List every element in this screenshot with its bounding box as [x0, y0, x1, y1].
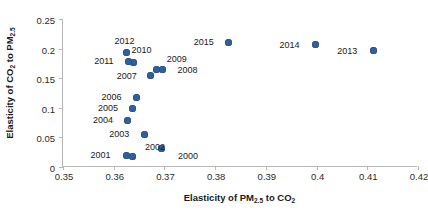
x-axis-tick-label: 0.35 — [55, 171, 74, 182]
data-label-2009: 2009 — [167, 54, 187, 64]
plot-area: 00.050.10.150.20.25 0.350.360.370.380.39… — [62, 19, 417, 167]
x-axis-tick: 0.37 — [164, 166, 165, 170]
x-axis-tick: 0.35 — [63, 166, 64, 170]
data-label-2000: 2000 — [178, 151, 198, 161]
data-point-2007[interactable] — [147, 72, 154, 79]
x-axis-title-mid: to CO — [263, 192, 292, 203]
data-point-2009[interactable] — [153, 66, 160, 73]
x-axis-title-sub-pm: 2.5 — [254, 197, 263, 204]
data-point-2002[interactable] — [129, 153, 136, 160]
data-point-2013[interactable] — [370, 47, 377, 54]
data-label-2013: 2013 — [337, 46, 357, 56]
data-point-2003[interactable] — [141, 131, 148, 138]
y-axis-title-mid: to PM — [4, 36, 15, 65]
data-label-2006: 2006 — [102, 92, 122, 102]
data-label-2011: 2011 — [94, 56, 113, 66]
y-axis-tick: 0.2 — [59, 49, 63, 50]
x-axis-tick-label: 0.41 — [359, 171, 378, 182]
x-axis-tick: 0.36 — [114, 166, 115, 170]
data-point-2015[interactable] — [225, 39, 232, 46]
x-axis-title-sub-co: 2 — [292, 197, 296, 204]
data-label-2008: 2008 — [177, 65, 197, 75]
data-point-2014[interactable] — [312, 41, 319, 48]
y-axis-title-sub-co: 2 — [9, 65, 16, 69]
x-axis-tick: 0.38 — [215, 166, 216, 170]
data-label-2003: 2003 — [109, 129, 129, 139]
data-label-2004: 2004 — [93, 115, 113, 125]
y-axis-tick-label: 0.15 — [37, 74, 56, 85]
y-axis-tick-label: 0.05 — [37, 133, 56, 144]
y-axis-title-prefix: Elasticity of CO — [4, 69, 15, 139]
y-axis-tick: 0.25 — [59, 19, 63, 20]
data-label-2002: 2002 — [145, 142, 165, 152]
x-axis-tick: 0.41 — [367, 166, 368, 170]
data-label-2014: 2014 — [280, 40, 300, 50]
x-axis-tick-label: 0.39 — [258, 171, 277, 182]
y-axis-tick: 0.15 — [59, 78, 63, 79]
data-label-2010: 2010 — [131, 45, 151, 55]
y-axis-title: Elasticity of CO2 to PM2.5 — [4, 0, 18, 176]
y-axis-tick: 0.05 — [59, 137, 63, 138]
data-point-2004[interactable] — [124, 117, 131, 124]
y-axis-tick: 0.1 — [59, 108, 63, 109]
x-axis-tick: 0.42 — [418, 166, 419, 170]
y-axis-title-sub-pm: 2.5 — [9, 27, 16, 36]
x-axis-tick-label: 0.37 — [156, 171, 175, 182]
x-axis-title: Elasticity of PM2.5 to CO2 — [62, 192, 417, 203]
y-axis-tick-label: 0.2 — [42, 44, 55, 55]
y-axis-tick-label: 0.25 — [37, 15, 56, 26]
data-label-2012: 2012 — [114, 36, 134, 46]
data-point-2005[interactable] — [129, 105, 136, 112]
x-axis-tick-label: 0.38 — [207, 171, 226, 182]
x-axis-title-prefix: Elasticity of PM — [184, 192, 254, 203]
data-point-2011[interactable] — [125, 58, 132, 65]
y-axis-tick-label: 0.1 — [42, 103, 55, 114]
x-axis-tick-label: 0.42 — [410, 171, 428, 182]
data-point-2006[interactable] — [133, 94, 140, 101]
data-label-2007: 2007 — [117, 71, 137, 81]
data-point-2012[interactable] — [123, 49, 130, 56]
data-label-2015: 2015 — [194, 37, 214, 47]
data-label-2005: 2005 — [98, 103, 118, 113]
x-axis-tick: 0.4 — [317, 166, 318, 170]
x-axis-tick-label: 0.36 — [105, 171, 124, 182]
data-label-2001: 2001 — [90, 150, 110, 160]
x-axis-tick: 0.39 — [266, 166, 267, 170]
x-axis-tick-label: 0.4 — [311, 171, 324, 182]
